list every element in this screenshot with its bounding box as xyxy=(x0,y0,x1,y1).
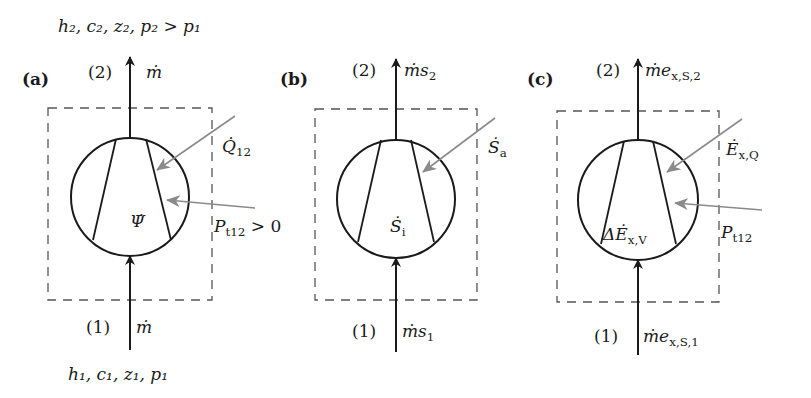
exergy-heat-label: Ėx,Q xyxy=(725,139,759,162)
compressor-balance-diagram: h₂, c₂, z₂, p₂ > p₁ h₁, c₁, z₁, p₁ (a)(2… xyxy=(0,0,811,398)
entropy-transfer-arrow xyxy=(423,118,495,172)
outlet-flow-label: ṁex,S,2 xyxy=(645,60,701,83)
inlet-port-label: (1) xyxy=(352,321,376,341)
outlet-flow-label: ṁs2 xyxy=(404,60,436,83)
center-quantity-label: Ψ̇ xyxy=(130,211,146,231)
panel-label: (c) xyxy=(527,69,553,89)
inlet-flow-label: ṁex,S,1 xyxy=(643,326,699,349)
outlet-port-label: (2) xyxy=(596,60,620,80)
diagram-canvas: h₂, c₂, z₂, p₂ > p₁ h₁, c₁, z₁, p₁ (a)(2… xyxy=(0,0,811,398)
outlet-flow-label: ṁ xyxy=(146,62,162,82)
entropy-transfer-label: Ṡa xyxy=(488,137,507,160)
power-label: Pt12 > 0 xyxy=(213,216,281,239)
heat-flow-label: Q̇12 xyxy=(222,136,251,159)
compressor-icon xyxy=(337,140,455,258)
inlet-port-label: (1) xyxy=(86,317,110,337)
panels-group: (a)(2)ṁ(1)ṁΨ̇Q̇12Pt12 > 0(b)(2)ṁs2(1)ṁs1… xyxy=(22,57,762,355)
inlet-flow-label: ṁs1 xyxy=(402,321,434,344)
panel-label: (a) xyxy=(22,69,49,89)
panel-b: (b)(2)ṁs2(1)ṁs1ṠiṠa xyxy=(280,59,507,352)
power-label: Pt12 xyxy=(720,222,752,245)
inlet-flow-label: ṁ xyxy=(136,317,152,337)
inlet-state-label: h₁, c₁, z₁, p₁ xyxy=(68,364,168,384)
panel-label: (b) xyxy=(280,69,308,89)
outlet-state-label: h₂, c₂, z₂, p₂ > p₁ xyxy=(58,16,201,36)
panel-a: (a)(2)ṁ(1)ṁΨ̇Q̇12Pt12 > 0 xyxy=(22,57,281,350)
outlet-port-label: (2) xyxy=(88,62,112,82)
outlet-port-label: (2) xyxy=(352,60,376,80)
inlet-port-label: (1) xyxy=(594,326,618,346)
panel-c: (c)(2)ṁex,S,2(1)ṁex,S,1ΔĖx,VĖx,QPt12 xyxy=(527,59,762,355)
